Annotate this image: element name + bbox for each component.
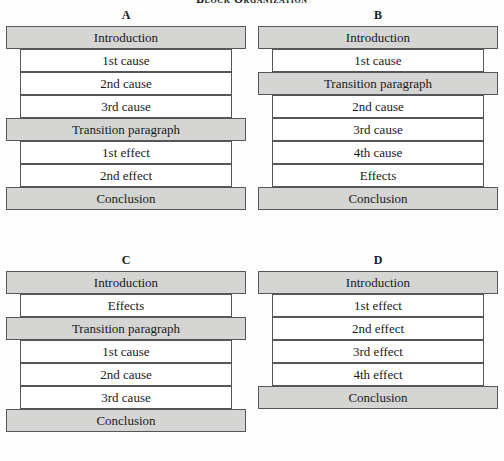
- row-label: Conclusion: [348, 192, 407, 205]
- diagram-row: Effects: [20, 294, 232, 317]
- diagram-row: 2nd effect: [20, 164, 232, 187]
- row-label: 1st effect: [354, 299, 402, 312]
- diagram-label: A: [6, 8, 246, 22]
- diagram-row: 1st effect: [20, 141, 232, 164]
- row-label: 1st effect: [102, 146, 150, 159]
- diagram-row: 1st effect: [272, 294, 484, 317]
- diagram-row: 4th cause: [272, 141, 484, 164]
- row-label: Introduction: [94, 31, 158, 44]
- row-label: Conclusion: [96, 414, 155, 427]
- row-label: Transition paragraph: [72, 123, 180, 136]
- diagram-band-row: Introduction: [6, 26, 246, 49]
- diagram-label: C: [6, 253, 246, 267]
- diagram-row: 3rd cause: [20, 95, 232, 118]
- row-label: Transition paragraph: [324, 77, 432, 90]
- diagram-a: AIntroduction1st cause2nd cause3rd cause…: [0, 8, 252, 253]
- row-label: Transition paragraph: [72, 322, 180, 335]
- diagram-row: 3rd effect: [272, 340, 484, 363]
- diagram-band-row: Conclusion: [6, 409, 246, 432]
- diagram-grid: AIntroduction1st cause2nd cause3rd cause…: [0, 8, 504, 461]
- row-label: Effects: [108, 299, 145, 312]
- diagram-row: 2nd cause: [20, 363, 232, 386]
- row-label: Conclusion: [348, 391, 407, 404]
- diagram-band-row: Conclusion: [6, 187, 246, 210]
- diagram-band-row: Introduction: [258, 271, 498, 294]
- diagram-band-row: Introduction: [6, 271, 246, 294]
- diagram-row: 1st cause: [20, 340, 232, 363]
- row-label: 3rd effect: [353, 345, 403, 358]
- diagram-stack: IntroductionEffectsTransition paragraph1…: [6, 271, 246, 432]
- diagram-band-row: Transition paragraph: [6, 118, 246, 141]
- row-label: Introduction: [346, 31, 410, 44]
- diagram-band-row: Transition paragraph: [6, 317, 246, 340]
- diagram-band-row: Conclusion: [258, 187, 498, 210]
- diagram-row: 2nd effect: [272, 317, 484, 340]
- diagram-label: B: [258, 8, 498, 22]
- diagram-band-row: Conclusion: [258, 386, 498, 409]
- row-label: 1st cause: [102, 54, 149, 67]
- row-label: Conclusion: [96, 192, 155, 205]
- row-label: 1st cause: [102, 345, 149, 358]
- figure-title: Block Organization: [0, 0, 504, 5]
- row-label: 2nd effect: [352, 322, 404, 335]
- diagram-row: 3rd cause: [272, 118, 484, 141]
- diagram-b: BIntroduction1st causeTransition paragra…: [252, 8, 504, 253]
- row-label: 3rd cause: [101, 100, 150, 113]
- diagram-row: 1st cause: [20, 49, 232, 72]
- diagram-label: D: [258, 253, 498, 267]
- row-label: 2nd effect: [100, 169, 152, 182]
- diagram-band-row: Transition paragraph: [258, 72, 498, 95]
- row-label: Introduction: [346, 276, 410, 289]
- row-label: 4th cause: [354, 146, 403, 159]
- row-label: 2nd cause: [100, 77, 152, 90]
- row-label: 4th effect: [353, 368, 402, 381]
- row-label: 3rd cause: [101, 391, 150, 404]
- row-label: Introduction: [94, 276, 158, 289]
- row-label: 2nd cause: [100, 368, 152, 381]
- row-label: Effects: [360, 169, 397, 182]
- diagram-row: 1st cause: [272, 49, 484, 72]
- diagram-stack: Introduction1st causeTransition paragrap…: [258, 26, 498, 210]
- diagram-d: DIntroduction1st effect2nd effect3rd eff…: [252, 253, 504, 461]
- row-label: 3rd cause: [353, 123, 402, 136]
- diagram-c: CIntroductionEffectsTransition paragraph…: [0, 253, 252, 461]
- diagram-row: 2nd cause: [20, 72, 232, 95]
- diagram-row: Effects: [272, 164, 484, 187]
- diagram-row: 4th effect: [272, 363, 484, 386]
- diagram-stack: Introduction1st cause2nd cause3rd causeT…: [6, 26, 246, 210]
- row-label: 1st cause: [354, 54, 401, 67]
- diagram-stack: Introduction1st effect2nd effect3rd effe…: [258, 271, 498, 409]
- diagram-row: 2nd cause: [272, 95, 484, 118]
- diagram-row: 3rd cause: [20, 386, 232, 409]
- row-label: 2nd cause: [352, 100, 404, 113]
- diagram-band-row: Introduction: [258, 26, 498, 49]
